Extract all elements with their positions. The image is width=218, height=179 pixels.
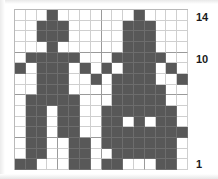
stitch-cell	[69, 74, 80, 85]
stitch-cell	[47, 85, 58, 96]
stitch-cell	[134, 10, 145, 21]
stitch-cell	[123, 85, 134, 96]
stitch-cell	[166, 74, 177, 85]
stitch-cell	[156, 31, 167, 42]
stitch-cell	[80, 10, 91, 21]
stitch-cell	[80, 42, 91, 53]
stitch-cell	[80, 95, 91, 106]
stitch-cell	[15, 42, 26, 53]
stitch-cell	[37, 31, 48, 42]
stitch-cell	[177, 106, 188, 117]
stitch-cell	[156, 106, 167, 117]
stitch-cell	[37, 106, 48, 117]
row-label-14: 14	[196, 12, 208, 23]
stitch-cell	[145, 74, 156, 85]
stitch-cell	[69, 10, 80, 21]
stitch-cell	[15, 117, 26, 128]
stitch-cell	[123, 149, 134, 160]
stitch-cell	[15, 106, 26, 117]
stitch-cell	[37, 149, 48, 160]
stitch-cell	[112, 85, 123, 96]
stitch-cell	[166, 53, 177, 64]
stitch-cell	[166, 10, 177, 21]
stitch-cell	[102, 85, 113, 96]
stitch-cell	[102, 21, 113, 32]
stitch-cell	[102, 10, 113, 21]
stitch-cell	[102, 127, 113, 138]
stitch-cell	[69, 31, 80, 42]
stitch-cell	[91, 159, 102, 170]
stitch-cell	[58, 159, 69, 170]
stitch-cell	[91, 106, 102, 117]
stitch-cell	[145, 63, 156, 74]
stitch-cell	[145, 21, 156, 32]
stitch-cell	[123, 31, 134, 42]
stitch-cell	[156, 21, 167, 32]
stitch-cell	[123, 10, 134, 21]
stitch-cell	[26, 21, 37, 32]
stitch-cell	[37, 10, 48, 21]
stitch-cell	[26, 95, 37, 106]
stitch-cell	[37, 127, 48, 138]
stitch-cell	[156, 74, 167, 85]
stitch-cell	[123, 53, 134, 64]
stitch-cell	[156, 53, 167, 64]
stitch-cell	[26, 42, 37, 53]
stitch-cell	[177, 63, 188, 74]
stitch-cell	[15, 31, 26, 42]
stitch-cell	[91, 149, 102, 160]
stitch-cell	[15, 159, 26, 170]
stitch-cell	[80, 159, 91, 170]
stitch-cell	[58, 63, 69, 74]
stitch-cell	[69, 53, 80, 64]
stitch-cell	[177, 31, 188, 42]
stitch-cell	[37, 138, 48, 149]
stitch-cell	[177, 117, 188, 128]
stitch-cell	[91, 127, 102, 138]
stitch-cell	[58, 95, 69, 106]
stitch-cell	[112, 149, 123, 160]
stitch-cell	[69, 149, 80, 160]
stitch-cell	[80, 117, 91, 128]
stitch-cell	[37, 21, 48, 32]
stitch-cell	[145, 117, 156, 128]
stitch-cell	[123, 127, 134, 138]
stitch-cell	[166, 149, 177, 160]
stitch-cell	[26, 127, 37, 138]
stitch-cell	[112, 138, 123, 149]
stitch-cell	[134, 31, 145, 42]
stitch-cell	[112, 106, 123, 117]
stitch-cell	[26, 85, 37, 96]
stitch-cell	[91, 117, 102, 128]
stitch-cell	[69, 127, 80, 138]
stitch-cell	[177, 95, 188, 106]
stitch-cell	[15, 63, 26, 74]
stitch-cell	[112, 42, 123, 53]
stitch-cell	[102, 159, 113, 170]
page-edge-shading-top	[0, 0, 218, 4]
stitch-cell	[123, 138, 134, 149]
stitch-cell	[91, 42, 102, 53]
stitch-grid	[14, 9, 188, 170]
stitch-cell	[15, 149, 26, 160]
stitch-cell	[47, 95, 58, 106]
stitch-cell	[58, 31, 69, 42]
stitch-cell	[134, 95, 145, 106]
stitch-cell	[15, 138, 26, 149]
stitch-cell	[112, 53, 123, 64]
stitch-cell	[69, 106, 80, 117]
stitch-cell	[15, 21, 26, 32]
stitch-cell	[166, 106, 177, 117]
stitch-cell	[102, 42, 113, 53]
stitch-cell	[26, 106, 37, 117]
stitch-cell	[123, 21, 134, 32]
stitch-cell	[47, 31, 58, 42]
stitch-cell	[166, 85, 177, 96]
stitch-cell	[166, 21, 177, 32]
stitch-cell	[177, 10, 188, 21]
stitch-cell	[156, 10, 167, 21]
stitch-cell	[58, 117, 69, 128]
stitch-cell	[145, 10, 156, 21]
stitch-cell	[102, 74, 113, 85]
stitch-cell	[15, 85, 26, 96]
